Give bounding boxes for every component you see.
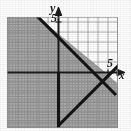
y-axis-tick-label-5: 5: [51, 12, 57, 24]
x-axis-label: x: [119, 70, 125, 81]
graph-figure: y 5 5 x: [0, 0, 131, 131]
x-axis-tick-label-5: 5: [107, 57, 113, 69]
